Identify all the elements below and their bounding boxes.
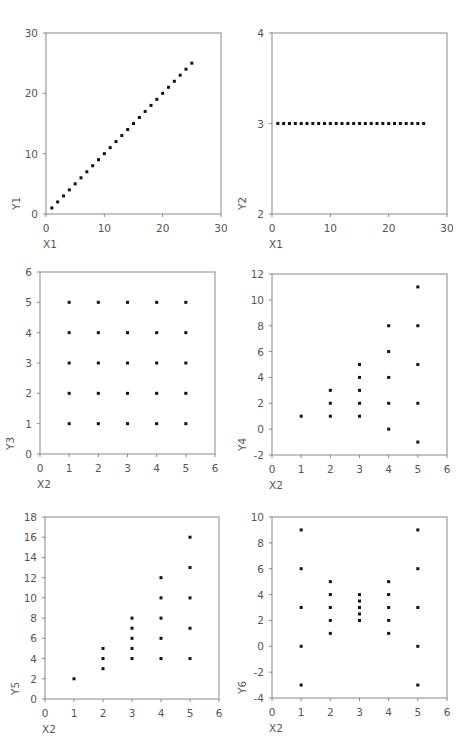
data-point (189, 536, 192, 539)
x-tick-label: 10 (98, 222, 111, 234)
data-point (329, 122, 332, 125)
data-point (300, 528, 303, 531)
data-point (189, 596, 192, 599)
data-point (189, 566, 192, 569)
y-tick-label: 18 (24, 511, 37, 523)
data-point (126, 392, 129, 395)
x-axis-label: X2 (42, 723, 56, 735)
x-tick-label: 5 (182, 462, 189, 474)
data-point (68, 331, 71, 334)
x-tick-label: 6 (444, 463, 451, 475)
data-point (126, 362, 129, 365)
y-tick-label: 6 (257, 346, 264, 358)
data-point (160, 637, 163, 640)
y-axis-label: Y5 (9, 682, 21, 696)
y-tick-label: 3 (257, 118, 264, 130)
data-point (306, 122, 309, 125)
y-tick-label: 2 (257, 614, 264, 626)
data-point (74, 182, 77, 185)
data-point (387, 428, 390, 431)
data-point (126, 128, 129, 131)
data-point (68, 392, 71, 395)
y-tick-label: -4 (254, 692, 265, 704)
data-point (155, 392, 158, 395)
data-point (416, 684, 419, 687)
data-point (62, 194, 65, 197)
x-tick-label: 20 (156, 222, 169, 234)
y-tick-label: 8 (30, 612, 37, 624)
data-point (97, 422, 100, 425)
y-tick-label: 5 (25, 296, 32, 308)
x-tick-label: 1 (66, 462, 73, 474)
data-point (329, 389, 332, 392)
x-tick-label: 1 (71, 707, 78, 719)
data-point (179, 74, 182, 77)
data-point (184, 422, 187, 425)
data-point (381, 122, 384, 125)
data-point (190, 62, 193, 65)
y-tick-label: -2 (254, 666, 264, 678)
data-point (97, 362, 100, 365)
y-tick-label: 4 (257, 371, 264, 383)
data-point (387, 350, 390, 353)
data-point (416, 567, 419, 570)
data-point (399, 122, 402, 125)
data-point (346, 122, 349, 125)
data-point (358, 402, 361, 405)
data-point (422, 122, 425, 125)
data-point (102, 657, 105, 660)
y-tick-label: 4 (257, 589, 264, 601)
data-point (276, 122, 279, 125)
data-point (387, 593, 390, 596)
x-tick-label: 5 (414, 706, 421, 718)
y-tick-label: 4 (257, 27, 264, 39)
x-tick-label: 20 (382, 222, 395, 234)
data-point (329, 402, 332, 405)
data-point (300, 567, 303, 570)
y-axis-label: Y4 (236, 438, 248, 452)
x-tick-label: 6 (444, 706, 451, 718)
x-tick-label: 30 (440, 222, 453, 234)
x-tick-label: 3 (356, 706, 363, 718)
data-point (387, 324, 390, 327)
data-point (189, 627, 192, 630)
y-tick-label: 2 (30, 673, 37, 685)
data-point (184, 301, 187, 304)
data-point (329, 632, 332, 635)
data-point (131, 637, 134, 640)
x-tick-label: 6 (216, 707, 223, 719)
y-tick-label: 8 (257, 320, 264, 332)
data-point (126, 422, 129, 425)
data-point (282, 122, 285, 125)
x-axis-label: X1 (269, 238, 283, 250)
data-point (131, 627, 134, 630)
data-point (160, 657, 163, 660)
data-point (393, 122, 396, 125)
scatter-panel-5: 0123456024681012141618X2Y5 (9, 511, 223, 735)
x-axis-label: X2 (37, 478, 51, 490)
x-tick-label: 4 (153, 462, 160, 474)
y-tick-label: 0 (257, 423, 264, 435)
x-tick-label: 2 (327, 706, 334, 718)
data-point (85, 170, 88, 173)
y-tick-label: 3 (25, 357, 32, 369)
data-point (184, 331, 187, 334)
x-tick-label: 3 (124, 462, 131, 474)
data-point (120, 134, 123, 137)
y-tick-label: 2 (257, 208, 264, 220)
data-point (155, 301, 158, 304)
data-point (56, 200, 59, 203)
data-point (411, 122, 414, 125)
data-point (300, 122, 303, 125)
data-point (160, 576, 163, 579)
data-point (102, 647, 105, 650)
y-axis-label: Y6 (236, 681, 248, 695)
data-point (132, 122, 135, 125)
data-point (300, 684, 303, 687)
scatter-panel-6: 0123456-4-20246810X2Y6 (236, 511, 451, 734)
data-point (352, 122, 355, 125)
data-point (376, 122, 379, 125)
data-point (358, 363, 361, 366)
data-point (323, 122, 326, 125)
data-point (311, 122, 314, 125)
